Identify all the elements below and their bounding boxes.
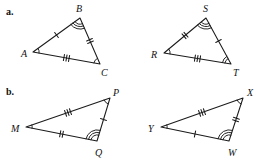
geometry-figure-page: a. b. ABCRSTMPQYXW [0, 0, 265, 160]
triangle-mpq-vertex-P-angle-arc [104, 100, 108, 104]
triangle-mpq [26, 98, 110, 141]
vertex-label-t: T [233, 68, 239, 78]
triangle-rst-side-RT-tick [197, 55, 198, 61]
vertex-label-p: P [113, 88, 119, 98]
vertex-label-x: X [247, 88, 253, 98]
triangle-abc-vertex-C-angle-arc [94, 58, 98, 63]
vertex-label-y: Y [148, 124, 154, 134]
triangle-abc-side-AC-tick [63, 54, 64, 60]
triangle-rst-side-RT-tick [194, 55, 195, 61]
triangle-yxw-vertex-X-angle-arc [237, 100, 241, 104]
triangle-abc [33, 18, 100, 64]
vertex-label-r: R [151, 50, 157, 60]
triangle-rst-vertex-T-angle-arc [225, 59, 228, 63]
vertex-label-w: W [228, 148, 236, 158]
vertex-label-q: Q [95, 148, 102, 158]
triangle-drawing-canvas [0, 0, 265, 160]
triangle-abc-vertex-A-angle-arc [38, 48, 39, 53]
triangle-mpq-side-MQ-tick [60, 131, 61, 137]
triangle-rst-side-RT-tick [200, 56, 201, 62]
triangle-yxw [161, 98, 243, 141]
triangle-abc-side-AC-tick [66, 55, 67, 61]
vertex-label-a: A [21, 49, 27, 59]
triangle-rst [164, 18, 231, 64]
vertex-label-m: M [11, 124, 19, 134]
triangle-yxw-side-YW-tick [194, 131, 195, 137]
triangle-rst-vertex-R-angle-arc [169, 49, 170, 54]
vertex-label-s: S [203, 4, 208, 14]
vertex-label-b: B [76, 4, 82, 14]
triangle-mpq-side-MQ-tick [62, 131, 63, 137]
triangle-abc-side-AB-tick [55, 32, 59, 37]
triangle-abc-side-AC-tick [69, 55, 70, 61]
vertex-label-c: C [101, 68, 108, 78]
